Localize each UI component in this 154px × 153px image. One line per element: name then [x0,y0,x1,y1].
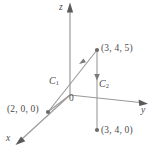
origin-label: 0 [69,94,74,104]
c1-marker-tick [79,59,86,65]
point-340-dot [95,128,99,132]
point-label-345: (3, 4, 5) [101,44,133,54]
coordinate-diagram-figure: z y x 0 (3, 4, 5) (3, 4, 0) (2, 0, 0) C1… [0,0,154,153]
marker-label-c2-letter: C [99,78,106,89]
y-axis-label: y [141,106,145,116]
point-label-340: (3, 4, 0) [101,126,133,136]
marker-label-c1: C1 [49,76,59,87]
y-axis [70,95,148,106]
x-axis-label: x [6,134,10,144]
marker-label-c1-letter: C [49,75,56,86]
point-200-dot [46,110,50,114]
marker-label-c2: C2 [99,79,109,90]
point-345-dot [95,48,99,52]
x-axis [16,95,71,145]
marker-label-c1-sub: 1 [56,79,59,86]
z-axis-label: z [59,3,63,13]
marker-label-c2-sub: 2 [106,82,109,89]
point-label-200: (2, 0, 0) [7,105,39,115]
